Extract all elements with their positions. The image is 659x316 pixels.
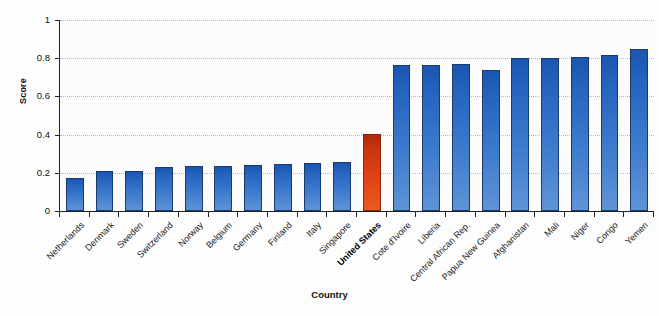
x-tick-mark	[564, 211, 565, 217]
bar[interactable]	[66, 178, 84, 211]
bar[interactable]	[422, 65, 440, 211]
x-tick-mark	[118, 211, 119, 217]
bar[interactable]	[363, 134, 381, 211]
bar[interactable]	[244, 165, 262, 211]
bar[interactable]	[155, 167, 173, 211]
x-tick-label: Niger	[569, 220, 591, 242]
x-tick-mark	[59, 211, 60, 217]
x-tick-mark	[356, 211, 357, 217]
bar[interactable]	[274, 164, 292, 211]
y-tick-label: 0.4	[10, 129, 50, 140]
bar[interactable]	[601, 55, 619, 211]
bar[interactable]	[333, 162, 351, 211]
x-tick-mark	[297, 211, 298, 217]
bar[interactable]	[185, 166, 203, 211]
x-tick-mark	[505, 211, 506, 217]
x-tick-mark	[623, 211, 624, 217]
bar[interactable]	[393, 65, 411, 211]
bar-chart: Score 00.20.40.60.81 NetherlandsDenmarkS…	[0, 0, 659, 316]
x-tick-mark	[267, 211, 268, 217]
x-tick-label: Mali	[542, 220, 561, 239]
bar[interactable]	[304, 163, 322, 211]
bar[interactable]	[125, 171, 143, 211]
x-tick-label: Liberia	[416, 220, 442, 246]
x-tick-mark	[326, 211, 327, 217]
y-tick-label: 0.6	[10, 90, 50, 101]
bars-layer	[60, 20, 654, 211]
x-tick-label: Finland	[266, 220, 294, 248]
x-tick-mark	[208, 211, 209, 217]
x-tick-label: Germany	[231, 220, 264, 253]
x-axis-title: Country	[0, 289, 659, 300]
x-tick-mark	[386, 211, 387, 217]
x-tick-label: Congo	[595, 220, 621, 246]
x-tick-mark	[237, 211, 238, 217]
x-tick-mark	[415, 211, 416, 217]
x-tick-mark	[445, 211, 446, 217]
y-tick-label: 0	[10, 205, 50, 216]
x-tick-label: Netherlands	[45, 220, 86, 261]
x-tick-mark	[475, 211, 476, 217]
x-tick-mark	[534, 211, 535, 217]
x-tick-label: Norway	[176, 220, 205, 249]
bar[interactable]	[571, 57, 589, 211]
bar[interactable]	[541, 58, 559, 211]
x-tick-mark	[148, 211, 149, 217]
x-tick-mark	[653, 211, 654, 217]
x-tick-mark	[594, 211, 595, 217]
y-tick-label: 0.8	[10, 52, 50, 63]
y-tick-label: 1	[10, 14, 50, 25]
x-tick-label: Denmark	[83, 220, 116, 253]
x-tick-mark	[178, 211, 179, 217]
bar[interactable]	[96, 171, 114, 211]
x-tick-label: Yemen	[624, 220, 651, 247]
plot-area: 00.20.40.60.81	[59, 20, 654, 212]
x-tick-label: Italy	[305, 220, 324, 239]
bar[interactable]	[630, 49, 648, 211]
bar[interactable]	[482, 70, 500, 211]
bar[interactable]	[214, 166, 232, 211]
bar[interactable]	[452, 64, 470, 211]
x-tick-mark	[89, 211, 90, 217]
y-tick-label: 0.2	[10, 167, 50, 178]
bar[interactable]	[511, 58, 529, 211]
